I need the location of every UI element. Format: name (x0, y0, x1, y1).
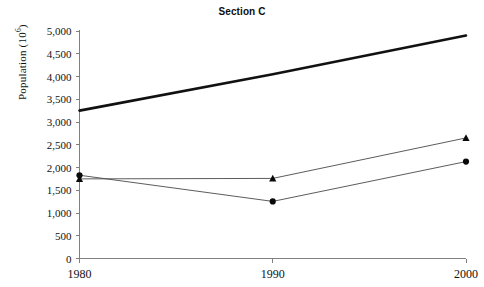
chart-container: Section C Population (106) 05001,0001,50… (0, 0, 484, 287)
series-line-circle-series (80, 162, 467, 202)
plot-area: 05001,0001,5002,0002,5003,0003,5004,0004… (0, 0, 484, 287)
y-tick-label: 0 (66, 253, 72, 265)
data-point-marker-triangle (462, 134, 469, 141)
series-line-triangle-series (80, 138, 467, 179)
y-tick-label: 3,500 (47, 93, 72, 105)
series-line-thick-trend-line (80, 36, 467, 111)
x-tick-label: 2000 (454, 267, 478, 281)
y-tick-label: 500 (55, 230, 72, 242)
y-axis-ticks: 05001,0001,5002,0002,5003,0003,5004,0004… (47, 25, 80, 265)
y-tick-label: 5,000 (47, 25, 72, 37)
y-tick-label: 2,500 (47, 139, 72, 151)
y-tick-label: 4,000 (47, 71, 72, 83)
y-tick-label: 2,000 (47, 162, 72, 174)
data-point-marker-circle (76, 172, 82, 178)
y-tick-label: 1,500 (47, 184, 72, 196)
x-axis-ticks: 198019902000 (68, 259, 479, 281)
data-point-marker-circle (463, 158, 469, 164)
y-tick-label: 3,000 (47, 116, 72, 128)
data-point-marker-circle (270, 198, 276, 204)
data-series-layer (76, 36, 470, 205)
y-tick-label: 4,500 (47, 48, 72, 60)
x-tick-label: 1990 (261, 267, 285, 281)
x-tick-label: 1980 (68, 267, 92, 281)
y-tick-label: 1,000 (47, 207, 72, 219)
